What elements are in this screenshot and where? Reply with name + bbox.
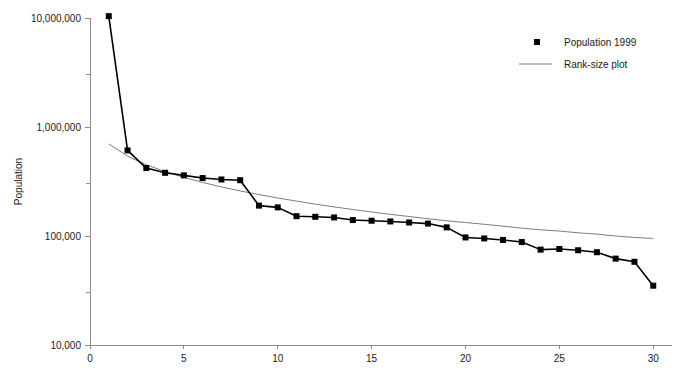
data-point-marker: [369, 218, 375, 224]
rank-size-chart: 10,000100,0001,000,00010,000,000 0510152…: [0, 0, 682, 377]
data-point-marker: [500, 237, 506, 243]
y-tick-label: 10,000: [50, 340, 81, 351]
data-point-marker: [350, 217, 356, 223]
x-axis-ticks: 051015202530: [87, 345, 659, 364]
data-point-marker: [181, 172, 187, 178]
y-axis-ticks: 10,000100,0001,000,00010,000,000: [31, 13, 90, 351]
data-point-marker: [631, 259, 637, 265]
data-point-marker: [237, 177, 243, 183]
x-tick-label: 5: [181, 353, 187, 364]
data-point-marker: [425, 221, 431, 227]
data-point-marker: [294, 213, 300, 219]
rank-size-fit-line: [109, 144, 653, 239]
legend-label: Rank-size plot: [564, 59, 628, 70]
data-point-marker: [218, 176, 224, 182]
x-tick-label: 10: [272, 353, 284, 364]
x-tick-label: 25: [554, 353, 566, 364]
data-point-marker: [312, 214, 318, 220]
x-tick-label: 30: [648, 353, 660, 364]
data-point-marker: [556, 246, 562, 252]
data-point-marker: [481, 235, 487, 241]
legend-label: Population 1999: [564, 37, 637, 48]
x-tick-label: 0: [87, 353, 93, 364]
data-point-marker: [331, 214, 337, 220]
rank-size-line: [109, 144, 653, 239]
data-point-marker: [162, 170, 168, 176]
data-point-marker: [650, 283, 656, 289]
population-markers: [106, 13, 656, 289]
y-axis-title-text: Population: [13, 158, 24, 205]
data-point-marker: [613, 256, 619, 262]
data-point-marker: [538, 247, 544, 253]
y-tick-label: 1,000,000: [37, 122, 82, 133]
y-tick-label: 100,000: [45, 231, 82, 242]
data-point-marker: [444, 224, 450, 230]
data-point-marker: [519, 239, 525, 245]
y-tick-label: 10,000,000: [31, 13, 81, 24]
chart-legend: Population 1999Rank-size plot: [519, 37, 637, 70]
x-tick-label: 15: [366, 353, 378, 364]
population-series: [109, 16, 653, 286]
data-point-marker: [462, 234, 468, 240]
data-point-marker: [143, 165, 149, 171]
chart-canvas: 10,000100,0001,000,00010,000,000 0510152…: [0, 0, 682, 377]
data-point-marker: [387, 218, 393, 224]
data-point-marker: [125, 147, 131, 153]
population-line: [109, 16, 653, 286]
y-axis-title: Population: [13, 158, 24, 205]
data-point-marker: [256, 203, 262, 209]
data-point-marker: [575, 247, 581, 253]
data-point-marker: [594, 249, 600, 255]
legend-marker-icon: [534, 39, 540, 45]
data-point-marker: [275, 204, 281, 210]
data-point-marker: [406, 220, 412, 226]
x-tick-label: 20: [460, 353, 472, 364]
data-point-marker: [106, 13, 112, 19]
data-point-marker: [200, 175, 206, 181]
